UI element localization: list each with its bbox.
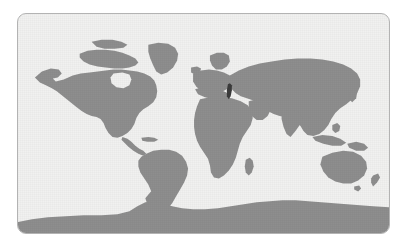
landmass-arctic-islands-north xyxy=(92,40,128,49)
landmass-australia xyxy=(320,151,367,184)
world-map-locator xyxy=(0,0,409,249)
landmass-canadian-arctic xyxy=(80,50,139,69)
landmass-north-america xyxy=(35,69,157,138)
landmass-tasmania xyxy=(354,185,361,191)
landmass-scandinavia xyxy=(210,53,230,70)
landmass-new-guinea xyxy=(347,142,368,151)
landmass-caribbean xyxy=(141,137,158,142)
landmass-philippines xyxy=(332,123,340,133)
landmass-antarctica xyxy=(18,200,389,233)
landmass-greenland xyxy=(148,43,178,75)
landmass-madagascar xyxy=(245,158,254,176)
world-map-graphic xyxy=(18,14,389,233)
landmass-indonesia xyxy=(312,135,346,146)
map-card xyxy=(17,13,390,234)
landmass-india xyxy=(282,110,303,137)
landmass-new-zealand xyxy=(371,174,380,187)
landmass-africa xyxy=(194,97,253,178)
